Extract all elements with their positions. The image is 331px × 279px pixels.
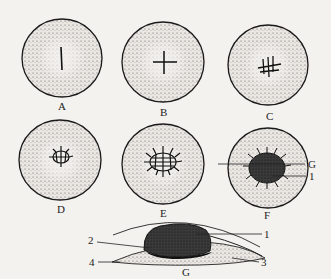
panel-e [122,124,204,204]
panel-a [22,19,102,97]
blastoderm-cap [144,224,211,257]
panel-label-a: A [58,100,66,112]
panel-b [122,22,204,102]
panel-label-d: D [57,203,65,215]
first-cleavage-furrow [61,47,62,70]
callout-line-2 [97,242,150,248]
panel-label-b: B [160,106,167,118]
cross-section-label-g: G [182,266,190,278]
cross-section: 1 2 3 4 G [88,223,270,279]
cross-label-2: 2 [88,234,94,246]
panel-d [19,120,101,200]
panel-label-c: C [266,110,273,122]
callout-label-1: 1 [309,170,315,182]
embryo-cleavage-diagram: G 1 A B C D E F 1 2 3 4 G [0,0,331,279]
panel-f: G 1 [218,128,316,208]
panel-label-e: E [160,207,167,219]
cross-label-4: 4 [89,256,95,268]
cross-label-1: 1 [264,228,270,240]
cross-label-3: 3 [261,256,267,268]
callout-label-g: G [308,158,316,170]
panel-c [228,25,308,105]
panel-label-f: F [264,209,270,221]
